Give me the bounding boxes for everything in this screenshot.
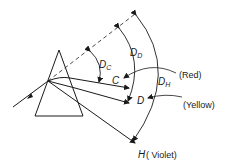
- label-ray-c: C: [112, 75, 120, 86]
- label-ray-h: H: [138, 149, 146, 160]
- arc-dh: [133, 15, 158, 141]
- label-dh: DH: [158, 76, 171, 88]
- label-yellow: (Yellow): [183, 100, 215, 110]
- prism: [35, 50, 83, 116]
- label-violet: ( Violet): [146, 150, 177, 160]
- label-dd: DD: [130, 47, 142, 59]
- leader-yellow: [148, 95, 182, 98]
- label-dc: DC: [99, 59, 112, 71]
- label-ray-d: D: [137, 95, 144, 106]
- arc-dd: [119, 28, 135, 101]
- prism-dispersion-diagram: DC DD DH C D H (Red) (Yellow) ( Violet): [0, 0, 235, 165]
- ray-h-violet: [48, 81, 135, 143]
- leader-red: [124, 68, 176, 78]
- label-red: (Red): [179, 70, 202, 80]
- undeviated-dashed-line: [48, 14, 135, 81]
